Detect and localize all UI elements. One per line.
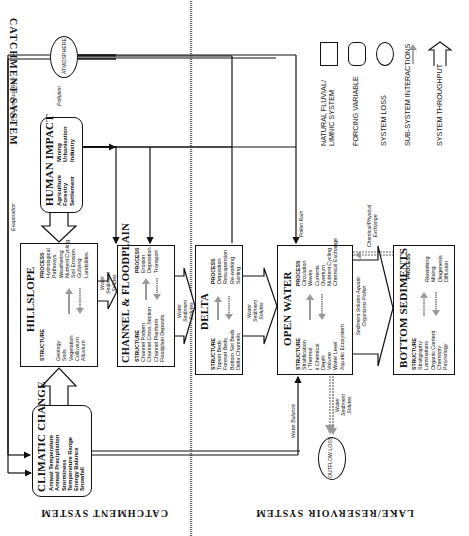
bottom-sediments-structure-list: Stratigraphy Laminations Organic Content…: [417, 331, 448, 370]
open-water-structure-list: Stratification i Thermal ii Chemical Dep…: [301, 324, 345, 370]
legend-ellipse-icon: [376, 42, 394, 66]
list-item: Organic Content: [430, 331, 436, 370]
channel-structure-list: Channel Pattern Channel Cross Section Ch…: [140, 307, 165, 362]
list-item: Urbanisation: [62, 127, 68, 162]
delta-to-open-water-label: Water Sediment Solutes: [246, 298, 264, 324]
list-item: Channel Cross Section: [146, 307, 152, 362]
list-item: Industry: [69, 127, 75, 162]
list-item: Aquatic Ecosystem: [339, 324, 345, 370]
human-impact-col2: Mining Urbanisation Industry: [56, 127, 75, 162]
climatic-change-box: CLIMATIC CHANGE Annual Temperature Annua…: [32, 405, 92, 497]
legend-label: NATURAL FLUVIAL/ LIMNIC SYSTEM: [320, 71, 336, 146]
list-item: Sorting: [235, 250, 241, 284]
hillslope-title: HILLSLOPE: [24, 267, 36, 332]
climatic-change-title: CLIMATIC CHANGE: [35, 381, 47, 492]
catchment-system-footer: CATCHMENT SYSTEM: [40, 508, 168, 519]
hillslope-to-channel-label: Water Sediment Solutes: [99, 270, 117, 296]
legend-label: SYSTEM THROUGHPUT: [436, 64, 444, 146]
channel-to-delta-label: Water Sediment Solutes: [176, 298, 194, 324]
list-item: Bottom Set Beds: [229, 330, 235, 370]
interaction-arrows-icon: [138, 276, 164, 302]
interaction-arrows-icon: [302, 292, 330, 322]
list-item: Transport: [153, 248, 159, 273]
interaction-arrows-icon: [61, 286, 87, 316]
pollution-label: Pollution: [56, 86, 62, 106]
list-item: Deposition: [146, 248, 152, 273]
legend-label: FORCING VARIABLE: [352, 76, 360, 146]
list-item: Annual Precipitation: [54, 435, 60, 491]
list-item: Settlement: [69, 175, 75, 206]
water-balance-label: Water Balance: [290, 404, 296, 438]
legend-rounded-rect-icon: [348, 42, 366, 66]
delta-process-list: Deposition Resuspension Re-working Sorti…: [216, 250, 241, 284]
climatic-change-items: Annual Temperature Annual Precipitation …: [48, 435, 86, 491]
open-water-to-sediments-label: Sediment Solutes Aquatic Organisms Polle…: [355, 271, 367, 341]
structure-header: STRUCTURE: [39, 329, 45, 361]
outflow-label: Water Sediment Solutes: [334, 392, 352, 418]
atmosphere-label: ATMOSPHERE: [61, 38, 67, 74]
list-item: Landslides: [83, 240, 89, 278]
human-impact-title: HUMAN IMPACT: [43, 114, 55, 206]
pollen-rain-label: Pollen Rain: [298, 210, 304, 238]
open-water-title: OPEN WATER: [281, 271, 293, 346]
hillslope-process-list: Hydrological Pathways Weathering Nutrien…: [45, 240, 89, 278]
legend: NATURAL FLUVIAL/ LIMNIC SYSTEM FORCING V…: [320, 26, 469, 266]
delta-structure-list: Topset Beds Foreset Beds Bottom Set Beds…: [216, 330, 241, 370]
delta-title: DELTA: [198, 293, 210, 330]
human-impact-box: HUMAN IMPACT Agriculture Forestry Settle…: [40, 117, 83, 213]
list-item: Resuspension: [222, 250, 228, 284]
legend-label: SUB-SYSTEM INTERACTIONS: [404, 44, 412, 146]
evaporation-label: Evaporation: [10, 203, 16, 231]
lake-reservoir-system-footer: LAKE/RESERVOIR SYSTEM: [255, 508, 414, 519]
channel-floodplain-box: CHANNEL & FLOODPLAIN STRUCTURE Channel P…: [117, 245, 175, 367]
atmosphere-ellipse: ATMOSPHERE: [50, 36, 78, 78]
interaction-arrows-icon: [210, 294, 236, 322]
legend-label: SYSTEM LOSS: [380, 95, 388, 146]
catchment-system-label: CATCHMENT SYSTEM: [8, 18, 19, 146]
interaction-arrows-icon: [416, 290, 444, 318]
list-item: Floodplain Deposits: [159, 307, 165, 362]
diagram-canvas: CLIMATIC CHANGE Annual Temperature Annua…: [0, 0, 469, 536]
channel-floodplain-title: CHANNEL & FLOODPLAIN: [120, 223, 131, 363]
channel-process-list: Erosion Deposition Transport: [140, 248, 159, 273]
list-item: Palynology: [442, 331, 448, 370]
list-item: Delta Channels: [235, 330, 241, 370]
human-impact-col1: Agriculture Forestry Settlement: [56, 175, 75, 206]
list-item: Snowfall: [79, 435, 85, 491]
outflow-loss-ellipse: OUTFLOW LOSS: [318, 437, 346, 480]
delta-box: DELTA STRUCTURE Topset Beds Foreset Beds…: [195, 245, 243, 375]
outflow-loss-label: OUTFLOW LOSS: [327, 436, 333, 479]
hillslope-structure-list: Geology Soils Vegetation Colluvium Alluv…: [55, 336, 86, 361]
list-item: Alluvium: [80, 336, 86, 361]
list-item: Vegetation: [68, 336, 74, 361]
hillslope-box: HILLSLOPE STRUCTURE Geology Soils Vegeta…: [20, 243, 98, 367]
legend-rectangle-icon: [320, 42, 338, 66]
